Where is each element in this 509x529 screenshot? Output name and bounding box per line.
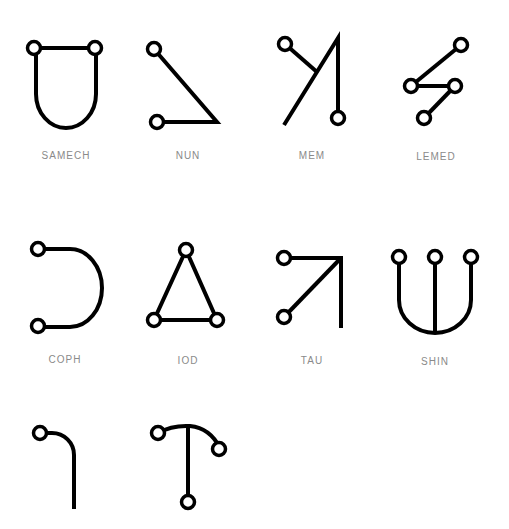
tau-glyph-icon xyxy=(278,252,342,329)
label-nun: NUN xyxy=(143,150,233,161)
lemed-glyph-icon xyxy=(405,39,468,125)
shin-glyph-icon xyxy=(393,251,478,334)
nun-glyph-icon xyxy=(148,43,218,129)
iod-glyph-icon xyxy=(148,244,224,327)
label-coph: COPH xyxy=(20,354,110,365)
mem-glyph-icon xyxy=(279,38,345,126)
anchor-glyph-icon xyxy=(152,426,226,509)
samech-glyph-icon xyxy=(28,42,102,129)
hook-glyph-icon xyxy=(34,427,75,510)
label-mem: MEM xyxy=(267,150,357,161)
label-lemed: LEMED xyxy=(391,151,481,162)
label-samech: SAMECH xyxy=(21,150,111,161)
label-iod: IOD xyxy=(143,355,233,366)
glyph-chart xyxy=(0,0,509,529)
label-tau: TAU xyxy=(267,355,357,366)
coph-glyph-icon xyxy=(32,243,103,333)
label-shin: SHIN xyxy=(390,356,480,367)
